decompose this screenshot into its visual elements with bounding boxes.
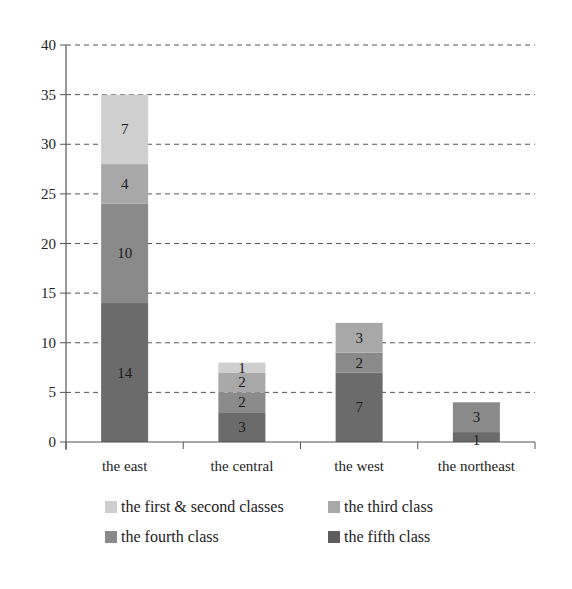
x-category-label: the central (210, 458, 273, 474)
legend-swatch-icon (328, 501, 340, 513)
bar-value-label: 3 (238, 419, 246, 435)
bar-value-label: 2 (238, 394, 246, 410)
y-tick-label: 30 (41, 136, 56, 152)
y-tick-label: 5 (49, 384, 57, 400)
y-tick-label: 20 (41, 236, 56, 252)
y-tick-label: 25 (41, 186, 56, 202)
legend-label: the fifth class (344, 528, 430, 546)
legend-item-fourth: the fourth class (105, 528, 219, 546)
x-category-label: the northeast (438, 458, 516, 474)
x-axis: the eastthe centralthe westthe northeast (66, 442, 535, 474)
legend-swatch-icon (105, 531, 117, 543)
y-tick-label: 0 (49, 434, 57, 450)
bar-value-label: 7 (121, 121, 129, 137)
bar-value-label: 14 (117, 365, 133, 381)
x-category-label: the east (102, 458, 148, 474)
bar-value-label: 2 (355, 355, 363, 371)
bar-value-label: 3 (473, 409, 481, 425)
legend-item-fifth: the fifth class (328, 528, 430, 546)
stacked-bar-chart: 0510152025303540 141047322172313 the eas… (0, 0, 572, 589)
bar-value-label: 10 (117, 245, 132, 261)
bar-value-label: 4 (121, 176, 129, 192)
legend-label: the third class (344, 498, 433, 516)
legend-item-first-second: the first & second classes (105, 498, 284, 516)
bar-value-label: 3 (355, 330, 363, 346)
x-category-label: the west (334, 458, 384, 474)
legend-swatch-icon (105, 501, 117, 513)
y-tick-label: 10 (41, 335, 56, 351)
bars: 141047322172313 (101, 95, 500, 448)
bar-value-label: 7 (355, 399, 363, 415)
legend-item-third: the third class (328, 498, 433, 516)
legend-label: the first & second classes (121, 498, 284, 516)
y-tick-label: 15 (41, 285, 56, 301)
y-tick-label: 40 (41, 37, 56, 53)
bar-value-label: 1 (238, 360, 246, 376)
legend-swatch-icon (328, 531, 340, 543)
legend-label: the fourth class (121, 528, 219, 546)
y-tick-label: 35 (41, 87, 56, 103)
y-axis: 0510152025303540 (41, 37, 66, 450)
bar-value-label: 2 (238, 374, 246, 390)
bar-value-label: 1 (473, 432, 481, 448)
